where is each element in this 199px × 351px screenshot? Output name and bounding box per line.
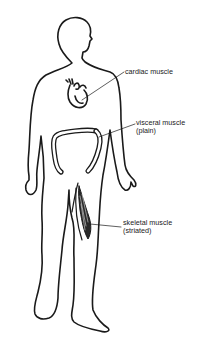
- label-skeletal-muscle: skeletal muscle (striated): [123, 219, 172, 235]
- human-body-diagram: [0, 0, 199, 351]
- body-outline: [26, 18, 136, 332]
- label-visceral-line2: (plain): [136, 127, 185, 135]
- label-cardiac-line1: cardiac muscle: [125, 68, 173, 76]
- colon-visceral-muscle: [53, 130, 100, 172]
- label-cardiac-muscle: cardiac muscle: [125, 68, 173, 76]
- label-skeletal-line2: (striated): [123, 227, 172, 235]
- leader-line-skeletal: [90, 224, 121, 227]
- thigh-skeletal-muscle: [72, 183, 91, 240]
- leader-line-visceral: [99, 124, 135, 137]
- label-visceral-muscle: visceral muscle (plain): [136, 119, 185, 135]
- heart-cardiac-muscle: [66, 79, 87, 108]
- leader-line-cardiac: [82, 72, 124, 100]
